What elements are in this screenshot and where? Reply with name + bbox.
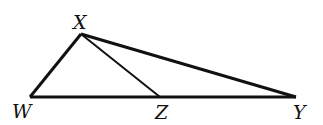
label-w: W — [12, 100, 33, 122]
segment-xw — [30, 34, 81, 97]
triangle-diagram: X W Z Y — [0, 0, 323, 125]
label-z: Z — [154, 101, 169, 123]
segment-xz — [81, 34, 160, 97]
label-y: Y — [293, 101, 308, 123]
label-x: X — [71, 11, 88, 33]
segment-xy — [81, 34, 296, 97]
